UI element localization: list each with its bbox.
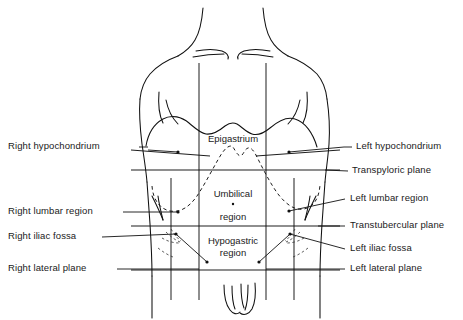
label-right-lateral-plane: Right lateral plane — [8, 263, 86, 273]
label-right-hypochondrium: Right hypochondrium — [8, 141, 100, 151]
vertical-plane-lines — [171, 63, 294, 300]
label-epigastrium: Epigastrium — [183, 133, 283, 145]
label-umbilical-region: Umbilical region — [183, 188, 283, 223]
label-hypogastric-line-1: Hypogastric — [183, 235, 283, 247]
label-right-iliac-fossa: Right iliac fossa — [8, 231, 76, 241]
leader-left-lumbar-region — [287, 199, 345, 213]
label-hypogastric-region: Hypogastric region — [183, 235, 283, 259]
leader-left-iliac-fossa — [288, 232, 345, 249]
label-left-hypochondrium: Left hypochondrium — [356, 141, 441, 151]
leader-transpyloric-plane — [325, 170, 348, 171]
label-right-lumbar-region: Right lumbar region — [8, 206, 93, 216]
label-epigastrium-line-1: Epigastrium — [208, 133, 258, 144]
label-left-lateral-plane: Left lateral plane — [350, 263, 422, 273]
diagram-canvas: Epigastrium Umbilical region Hypogastric… — [0, 0, 463, 320]
label-transpyloric-plane: Transpyloric plane — [352, 165, 431, 175]
torso-outline — [140, 8, 330, 318]
label-left-lumbar-region: Left lumbar region — [350, 193, 428, 203]
label-transtubercular-plane: Transtubercular plane — [350, 220, 444, 230]
label-umbilical-line-1: Umbilical — [183, 188, 283, 200]
leader-right-iliac-fossa — [102, 232, 178, 237]
label-left-iliac-fossa: Left iliac fossa — [350, 243, 412, 253]
label-umbilical-line-2: region — [183, 211, 283, 223]
label-hypogastric-line-2: region — [183, 247, 283, 259]
